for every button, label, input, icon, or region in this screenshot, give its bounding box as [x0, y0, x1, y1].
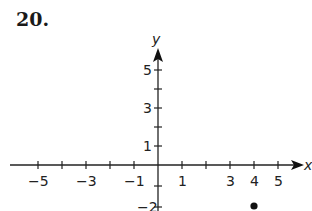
x-tick-label: −3	[76, 173, 97, 189]
x-tick-label: 1	[178, 173, 187, 189]
x-tick-label: −1	[124, 173, 145, 189]
y-tick-label: 5	[143, 62, 152, 78]
x-axis	[10, 160, 304, 170]
x-axis-label: x	[303, 157, 312, 173]
data-point	[250, 202, 257, 209]
y-axis	[153, 48, 163, 211]
y-tick-label: −2	[137, 199, 158, 211]
x-tick-label: 5	[274, 173, 283, 189]
x-tick-label: −5	[28, 173, 49, 189]
y-tick-label: 3	[143, 100, 152, 116]
x-tick-label: 3	[226, 173, 235, 189]
y-tick-label: 1	[143, 138, 152, 154]
x-tick-label: 4	[250, 173, 259, 189]
coordinate-plane: x y −5 −3 −1 1 3 4 5 5 3 1 −2	[0, 0, 312, 211]
y-axis-label: y	[151, 31, 161, 47]
